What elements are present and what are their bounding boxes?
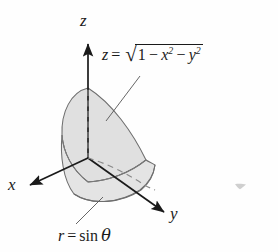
base-curve-equation-label: r=sin θ <box>58 228 111 244</box>
exponent-x: 2 <box>168 45 173 56</box>
sine-function-name: sin <box>79 227 98 244</box>
leader-line-base-curve <box>76 197 103 224</box>
base-eq-equals: = <box>67 227 76 244</box>
radicand-y: y <box>189 46 196 63</box>
surface-equation-label: z=√1 − x2 − y2 <box>102 44 203 65</box>
surface-eq-lhs: z <box>102 46 108 63</box>
figure-container: z x y z=√1 − x2 − y2 r=sin θ <box>0 0 278 252</box>
minus-sign-2: − <box>177 46 186 63</box>
y-axis-label: y <box>170 205 178 222</box>
radical-group: √1 − x2 − y2 <box>123 44 203 65</box>
leader-line-surface <box>106 76 140 121</box>
radicand-one: 1 <box>138 46 146 63</box>
minus-sign-1: − <box>149 46 158 63</box>
surface-eq-equals: = <box>111 46 120 63</box>
z-axis-label: z <box>80 12 87 29</box>
x-axis-label: x <box>8 176 16 193</box>
radicand: 1 − x2 − y2 <box>135 44 203 63</box>
figure-canvas <box>0 0 278 252</box>
exponent-y: 2 <box>196 45 201 56</box>
theta-symbol: θ <box>101 226 111 245</box>
base-eq-lhs: r <box>58 227 64 244</box>
scan-artifact-speck <box>234 183 247 190</box>
